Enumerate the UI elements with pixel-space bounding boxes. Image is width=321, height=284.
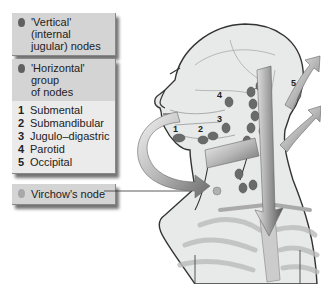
virchow-node	[213, 187, 221, 195]
node-label-3: 3	[217, 114, 222, 124]
node-label-4: 4	[217, 90, 222, 100]
head-neck-diagram: 1 2 3 4 5	[135, 10, 321, 284]
node-label-2: 2	[198, 124, 203, 134]
node-label-1: 1	[173, 124, 178, 134]
node-label-5: 5	[291, 78, 296, 88]
